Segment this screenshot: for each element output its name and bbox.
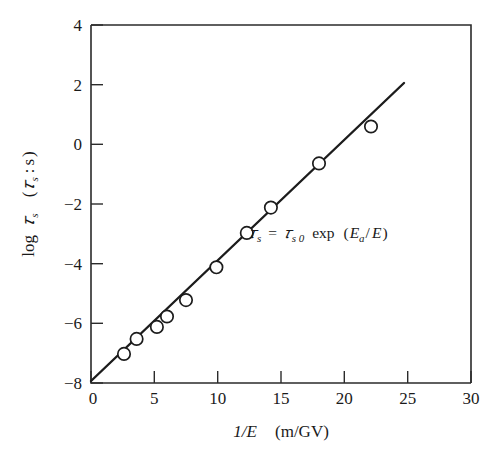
- eq-slash: /: [366, 224, 371, 241]
- data-point: [180, 294, 192, 306]
- eq-exp: exp: [312, 224, 335, 241]
- eq-equals: =: [268, 224, 277, 241]
- arrhenius-equation-annotation: 𝜏s = 𝜏s 0 exp (Ea/E): [249, 224, 388, 245]
- y-tick-label-minus-8: −8: [64, 374, 82, 393]
- axis-left-bottom: [91, 25, 471, 383]
- y-tick-label-0: 0: [74, 135, 83, 154]
- axis-frame: [91, 25, 471, 383]
- data-point: [130, 333, 142, 345]
- data-point: [210, 261, 222, 273]
- y-axis-label-paren-open: (: [19, 191, 38, 197]
- y-axis-label-tau2-sub: s: [28, 177, 40, 181]
- y-axis-ticks: [91, 25, 103, 383]
- x-tick-label-25: 25: [399, 389, 416, 408]
- eq-tau-sub: s: [257, 232, 261, 244]
- x-tick-label-30: 30: [463, 389, 480, 408]
- x-axis-label-units: (m/GV): [275, 422, 329, 441]
- y-axis-label-paren-close: ): [19, 151, 38, 157]
- x-axis-label-symbol: 1/E: [233, 422, 257, 441]
- chart-canvas: 4 2 0 −2 −4 −6 −8 0 5 10 15 20 25 30 1/E…: [0, 0, 499, 462]
- data-point: [313, 157, 325, 169]
- y-axis-label-tau-sub: s: [28, 213, 40, 217]
- x-axis-ticks: [91, 371, 471, 383]
- data-point: [151, 321, 163, 333]
- y-axis-label: log 𝜏s (𝜏s:s): [19, 151, 42, 257]
- data-point: [265, 201, 277, 213]
- eq-paren-open: (: [343, 224, 348, 242]
- x-tick-label-10: 10: [209, 389, 226, 408]
- eq-Ea: E: [349, 224, 360, 241]
- y-axis-label-colon: :: [19, 169, 38, 174]
- figure-container: 4 2 0 −2 −4 −6 −8 0 5 10 15 20 25 30 1/E…: [0, 0, 499, 462]
- data-point: [161, 310, 173, 322]
- y-tick-label-minus-4: −4: [64, 255, 83, 274]
- y-tick-label-minus-6: −6: [64, 314, 82, 333]
- y-axis-label-log: log: [19, 235, 38, 257]
- data-point: [365, 120, 377, 132]
- y-tick-label-minus-2: −2: [64, 195, 82, 214]
- y-tick-label-2: 2: [74, 76, 83, 95]
- x-tick-label-5: 5: [150, 389, 159, 408]
- y-axis-label-unit-s: s: [19, 159, 38, 166]
- y-tick-label-4: 4: [74, 16, 83, 35]
- x-tick-label-20: 20: [336, 389, 353, 408]
- x-tick-label-15: 15: [273, 389, 290, 408]
- eq-paren-close: ): [382, 224, 387, 242]
- axis-top-right: [91, 25, 471, 383]
- svg-text:1/E (m/GV): 1/E (m/GV): [233, 422, 329, 441]
- x-axis-label: 1/E (m/GV): [233, 422, 329, 441]
- eq-Ea-sub: a: [359, 232, 365, 244]
- data-point: [118, 348, 130, 360]
- eq-E: E: [371, 224, 382, 241]
- x-tick-labels: 0 5 10 15 20 25 30: [89, 389, 480, 408]
- svg-text:log 𝜏s (𝜏s:s: log 𝜏s (𝜏s:s): [19, 151, 42, 257]
- eq-tau0-sub: s 0: [292, 232, 305, 244]
- svg-text:𝜏s = 𝜏s 0: 𝜏s = 𝜏s 0 exp (Ea/E): [249, 224, 388, 245]
- y-tick-labels: 4 2 0 −2 −4 −6 −8: [64, 16, 83, 393]
- x-tick-label-0: 0: [89, 389, 98, 408]
